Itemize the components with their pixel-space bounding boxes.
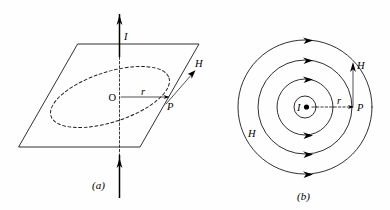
- circulation-arrowhead-bottom-4: [303, 171, 313, 178]
- panel-a-group: I O r P H (a): [19, 14, 204, 198]
- panel-a-radius-label: r: [141, 86, 146, 97]
- panel-b-group: I r P H H (b): [238, 37, 372, 203]
- circulation-arrowhead-top-4: [303, 37, 313, 44]
- panel-b-current-label: I: [296, 102, 301, 113]
- panel-a-center-label: O: [109, 92, 117, 103]
- panel-b-point-label: P: [356, 102, 364, 113]
- figure-root: I O r P H (a): [0, 0, 390, 210]
- circulation-arrowhead-top-2: [303, 76, 313, 83]
- circulation-arrowhead-top-3: [303, 57, 313, 64]
- panel-a-current-label: I: [123, 31, 128, 42]
- panel-b-field-label-right: H: [356, 60, 366, 71]
- panel-b-caption: (b): [297, 190, 310, 203]
- physics-figure-canvas: I O r P H (a): [0, 0, 390, 210]
- panel-b-radius-label: r: [337, 95, 342, 106]
- circulation-arrowhead-bottom-2: [303, 132, 313, 139]
- panel-a-caption: (a): [92, 179, 105, 192]
- panel-a-field-label: H: [194, 58, 204, 69]
- circulation-arrowhead-bottom-3: [303, 151, 313, 158]
- panel-b-field-label-left: H: [247, 128, 257, 139]
- current-out-of-page-dot: [304, 104, 309, 109]
